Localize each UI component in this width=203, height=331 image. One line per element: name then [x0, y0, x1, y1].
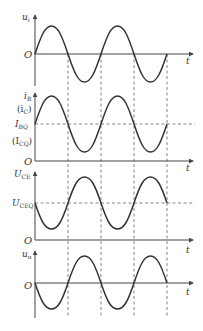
origin-label: O: [24, 235, 32, 246]
t-axis-label: t: [186, 287, 190, 297]
y-axis-label: uo: [22, 249, 32, 260]
t-axis-label: t: [186, 163, 190, 173]
panel-collector-emitter-voltage: UCE UCEQ O t: [12, 169, 195, 255]
vertical-dashed-guides: [68, 54, 167, 318]
quiescent-alt-label: (ICQ): [12, 136, 32, 147]
y-axis-label: ui: [22, 12, 30, 23]
panel-base-current: iB (iC) IBQ (ICQ) O t: [12, 91, 195, 173]
t-axis-label: t: [186, 56, 190, 66]
alt-axis-label: (iC): [17, 104, 32, 115]
panel-input-voltage: ui O t: [22, 12, 193, 86]
quiescent-label: UCEQ: [12, 198, 34, 209]
y-axis-label: UCE: [14, 169, 31, 180]
origin-label: O: [24, 49, 32, 60]
quiescent-label: IBQ: [14, 119, 28, 130]
origin-label: O: [24, 156, 32, 167]
t-axis-label: t: [186, 245, 190, 255]
y-axis-label: iB: [24, 91, 32, 102]
waveform-diagram: ui O t iB (iC) IBQ (ICQ) O t UCE UCEQ O …: [0, 0, 203, 331]
origin-label: O: [24, 280, 32, 291]
